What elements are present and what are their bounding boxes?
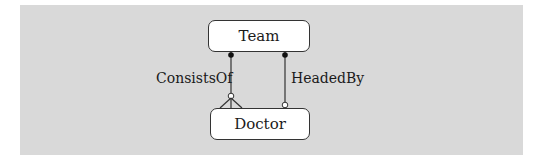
entity-team-label: Team [239, 27, 280, 45]
consistsof-team-end-dot-icon [228, 52, 234, 58]
headedby-optional-circle-icon [282, 102, 288, 108]
consistsof-optional-circle-icon [228, 93, 234, 99]
entity-doctor: Doctor [210, 108, 310, 140]
crows-foot-left-icon [220, 98, 231, 108]
relationship-headedby-label: HeadedBy [291, 70, 364, 86]
entity-doctor-label: Doctor [234, 115, 286, 133]
entity-team: Team [208, 20, 310, 52]
relationship-consistsof-label: ConsistsOf [156, 70, 232, 86]
crows-foot-right-icon [231, 98, 242, 108]
headedby-team-end-dot-icon [282, 52, 288, 58]
